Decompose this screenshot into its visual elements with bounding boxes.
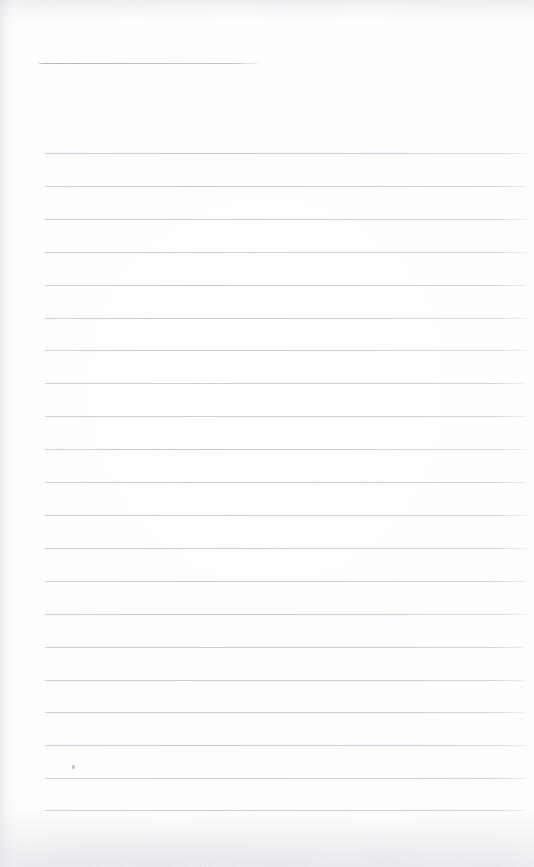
page-content-area[interactable] [44, 153, 529, 813]
scanned-page [0, 0, 534, 867]
